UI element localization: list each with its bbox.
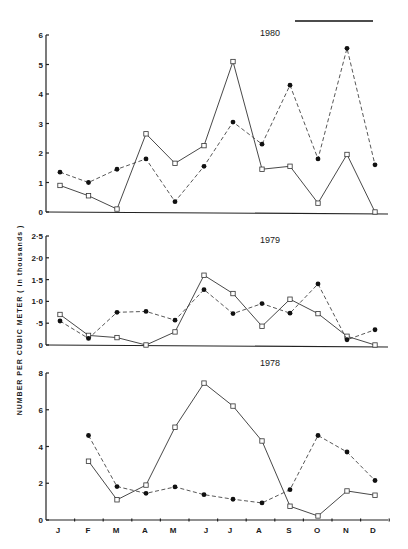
y-tick-label: 6 — [39, 31, 44, 40]
panel-title-1978: 1978 — [260, 358, 280, 368]
month-label: D — [370, 526, 376, 535]
open-square-marker — [288, 164, 292, 168]
filled-circle-marker — [231, 120, 236, 125]
open-square-marker — [58, 183, 62, 187]
filled-circle-marker — [115, 484, 120, 489]
month-label: S — [286, 526, 292, 535]
filled-circle-marker — [115, 310, 120, 315]
open-square-marker — [373, 210, 377, 214]
open-square-marker — [202, 143, 206, 147]
open-square-marker — [86, 459, 90, 463]
filled-circle-marker — [260, 301, 265, 306]
open-square-marker — [86, 194, 90, 198]
filled-circle-marker — [288, 487, 293, 492]
y-tick-label: 5 — [39, 61, 44, 70]
open-square-marker — [173, 161, 177, 165]
series-open-squares-line — [89, 383, 376, 516]
open-square-marker — [231, 59, 235, 63]
open-square-marker — [58, 312, 62, 316]
y-tick-label: 8 — [39, 369, 44, 378]
x-axis-month-labels: JFMAMJJASOND — [56, 526, 376, 535]
filled-circle-marker — [202, 287, 207, 292]
filled-circle-marker — [316, 433, 321, 438]
filled-circle-marker — [86, 433, 91, 438]
y-tick-label: 4 — [39, 443, 44, 452]
month-label: F — [86, 526, 91, 535]
open-square-marker — [115, 207, 119, 211]
filled-circle-marker — [288, 311, 293, 316]
filled-circle-marker — [144, 157, 149, 162]
y-tick-label: 2 — [39, 479, 44, 488]
month-label: J — [204, 526, 208, 535]
open-square-marker — [231, 291, 235, 295]
y-tick-label: 1·0 — [31, 297, 43, 306]
open-square-marker — [144, 343, 148, 347]
open-square-marker — [316, 311, 320, 315]
filled-circle-marker — [173, 485, 178, 490]
filled-circle-marker — [345, 46, 350, 51]
filled-circle-marker — [231, 497, 236, 502]
filled-circle-marker — [373, 162, 378, 167]
month-label: J — [56, 526, 60, 535]
open-square-marker — [288, 297, 292, 301]
x-axis — [46, 212, 388, 214]
filled-circle-marker — [173, 318, 178, 323]
month-label: O — [314, 526, 320, 535]
filled-circle-marker — [345, 450, 350, 455]
open-square-marker — [202, 381, 206, 385]
open-square-marker — [288, 504, 292, 508]
y-tick-label: 3 — [39, 120, 44, 129]
filled-circle-marker — [260, 501, 265, 506]
open-square-marker — [202, 273, 206, 277]
filled-circle-marker — [173, 199, 178, 204]
y-tick-label: ·5 — [36, 319, 44, 328]
month-label: M — [113, 526, 120, 535]
open-square-marker — [173, 330, 177, 334]
month-label: A — [142, 526, 148, 535]
filled-circle-marker — [260, 142, 265, 147]
filled-circle-marker — [316, 282, 321, 287]
open-square-marker — [260, 324, 264, 328]
y-tick-label: 0 — [39, 208, 44, 217]
filled-circle-marker — [288, 83, 293, 88]
panel-1978: 1978 02468 — [39, 358, 390, 525]
series-open-squares-line — [60, 275, 375, 345]
open-square-marker — [115, 335, 119, 339]
panel-1980: 1980 0123456 — [39, 28, 388, 217]
open-square-marker — [260, 439, 264, 443]
figure: NUMBER PER CUBIC METER ( in thousands ) … — [0, 0, 408, 549]
y-tick-label: 0 — [39, 341, 44, 350]
y-tick-label: 6 — [39, 406, 44, 415]
y-tick-label: 0 — [39, 516, 44, 525]
filled-circle-marker — [316, 157, 321, 162]
open-square-marker — [173, 425, 177, 429]
filled-circle-marker — [58, 170, 63, 175]
open-square-marker — [260, 167, 264, 171]
filled-circle-marker — [144, 309, 149, 314]
filled-circle-marker — [373, 327, 378, 332]
filled-circle-marker — [115, 167, 120, 172]
filled-circle-marker — [231, 311, 236, 316]
open-square-marker — [316, 201, 320, 205]
y-tick-label: 2·5 — [31, 232, 43, 241]
open-square-marker — [144, 483, 148, 487]
open-square-marker — [144, 132, 148, 136]
open-square-marker — [115, 498, 119, 502]
y-tick-label: 1·5 — [31, 276, 43, 285]
filled-circle-marker — [144, 491, 149, 496]
month-label: N — [343, 526, 349, 535]
filled-circle-marker — [202, 164, 207, 169]
open-square-marker — [345, 489, 349, 493]
x-axis — [46, 345, 388, 347]
y-axis-label: NUMBER PER CUBIC METER ( in thousands ) — [16, 225, 24, 416]
series-open-squares-line — [60, 62, 375, 212]
month-label: M — [170, 526, 177, 535]
filled-circle-marker — [86, 336, 91, 341]
month-label: A — [256, 526, 262, 535]
filled-circle-marker — [202, 492, 207, 497]
filled-circle-marker — [58, 319, 63, 324]
month-label: J — [228, 526, 232, 535]
series-filled-circles-line — [60, 48, 375, 201]
filled-circle-marker — [373, 478, 378, 483]
series-filled-circles-line — [60, 284, 375, 340]
